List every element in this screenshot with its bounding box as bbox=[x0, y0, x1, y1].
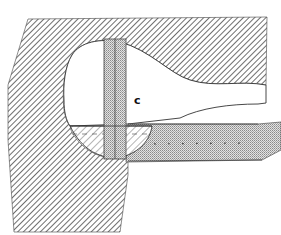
label-c: c bbox=[134, 94, 141, 107]
section-drawing: c bbox=[0, 0, 281, 235]
